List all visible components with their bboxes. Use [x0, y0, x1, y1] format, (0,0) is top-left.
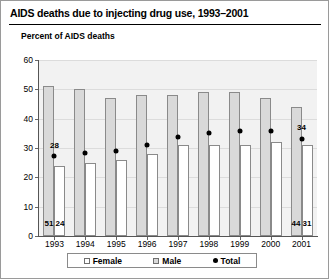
x-tick-label: 2000: [261, 239, 280, 249]
x-tick-mark: [271, 237, 272, 240]
x-tick-mark: [240, 237, 241, 240]
bar-female: [178, 145, 189, 236]
y-tick-mark: [35, 119, 38, 120]
legend-swatch-dot-icon: [213, 258, 218, 263]
x-tick-label: 1993: [45, 239, 64, 249]
bar-male: [167, 95, 178, 236]
total-marker: [268, 129, 273, 134]
female-value-label: 31: [302, 219, 313, 228]
y-tick-label: 50: [11, 84, 33, 94]
y-tick-mark: [35, 236, 38, 237]
bar-male: [74, 89, 85, 236]
total-marker: [114, 148, 119, 153]
bar-female: [271, 142, 282, 236]
total-marker: [52, 154, 57, 159]
female-value-label: 24: [54, 219, 65, 228]
legend-label: Total: [221, 256, 241, 266]
bar-male: [198, 92, 209, 236]
y-tick-mark: [35, 89, 38, 90]
x-tick-mark: [54, 237, 55, 240]
y-tick-label: 0: [11, 231, 33, 241]
x-tick-mark: [116, 237, 117, 240]
chart-legend: FemaleMaleTotal: [67, 253, 257, 268]
x-tick-mark: [302, 237, 303, 240]
bar-male: [43, 86, 54, 236]
y-tick-label: 40: [11, 114, 33, 124]
chart-figure: AIDS deaths due to injecting drug use, 1…: [0, 0, 329, 279]
legend-label: Female: [93, 256, 122, 266]
y-tick-label: 30: [11, 143, 33, 153]
total-marker: [237, 129, 242, 134]
y-tick-mark: [35, 207, 38, 208]
male-value-label: 51: [43, 219, 54, 228]
total-value-label: 28: [50, 141, 59, 150]
bar-female: [240, 145, 251, 236]
bar-male: [105, 98, 116, 236]
x-tick-label: 1994: [76, 239, 95, 249]
plot-area: 51244431 2834: [39, 60, 317, 236]
x-tick-mark: [209, 237, 210, 240]
total-marker: [83, 151, 88, 156]
legend-item-female[interactable]: Female: [84, 256, 122, 266]
total-value-label: 34: [297, 123, 306, 132]
y-tick-label: 20: [11, 172, 33, 182]
bar-female: [147, 154, 158, 236]
y-tick-mark: [35, 177, 38, 178]
total-marker: [206, 130, 211, 135]
bar-female: [85, 163, 96, 236]
legend-label: Male: [162, 256, 181, 266]
legend-item-male[interactable]: Male: [153, 256, 181, 266]
bar-male: [229, 92, 240, 236]
x-tick-label: 1997: [169, 239, 188, 249]
x-tick-label: 1995: [107, 239, 126, 249]
legend-swatch-open-square-icon: [84, 258, 90, 264]
male-value-label: 44: [291, 219, 302, 228]
bar-female: [116, 160, 127, 236]
total-marker: [299, 136, 304, 141]
legend-item-total[interactable]: Total: [213, 256, 241, 266]
y-tick-mark: [35, 148, 38, 149]
bar-male: [260, 98, 271, 236]
total-marker: [145, 142, 150, 147]
bar-female: [209, 145, 220, 236]
x-tick-label: 1996: [138, 239, 157, 249]
x-tick-mark: [178, 237, 179, 240]
x-tick-label: 2001: [292, 239, 311, 249]
chart-title: AIDS deaths due to injecting drug use, 1…: [10, 7, 248, 19]
grid-line: [39, 60, 317, 61]
x-tick-mark: [85, 237, 86, 240]
x-tick-label: 1998: [199, 239, 218, 249]
x-tick-mark: [147, 237, 148, 240]
total-marker: [176, 135, 181, 140]
legend-swatch-filled-square-icon: [153, 258, 159, 264]
x-tick-label: 1999: [230, 239, 249, 249]
y-tick-label: 60: [11, 55, 33, 65]
title-divider: [9, 24, 321, 25]
y-axis-label: Percent of AIDS deaths: [21, 31, 115, 41]
y-tick-mark: [35, 60, 38, 61]
bar-male: [136, 95, 147, 236]
y-tick-label: 10: [11, 202, 33, 212]
